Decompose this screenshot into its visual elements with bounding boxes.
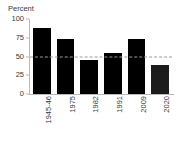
x-axis-tick-label: 1975 [69,96,77,113]
x-axis-tick-label: 1991 [116,96,124,113]
x-axis-tick-label: 1945-46 [45,96,53,124]
y-axis-tick-label: 0 [20,90,24,98]
y-axis-tick-label: 50 [16,53,24,61]
y-axis-tick-labels: 1007550250 [0,19,27,94]
y-axis-title: Percent [8,4,34,13]
bar-2020 [151,65,169,94]
y-axis-tick-label: 100 [11,15,24,23]
y-axis-tick-mark [26,19,29,20]
x-axis-tick-label: 2020 [163,96,171,113]
x-axis-tick-label: 2009 [140,96,148,113]
bar-1991 [104,53,122,94]
plot-area [30,19,172,94]
y-axis-tick-mark [26,94,29,95]
y-axis-tick-label: 75 [16,34,24,42]
bar-1982 [80,60,98,94]
bar-series [30,19,172,94]
x-axis-line [29,94,174,95]
x-axis-tick-label: 1982 [92,96,100,113]
y-axis-tick-label: 25 [16,71,24,79]
bar-1975 [57,39,75,95]
bar-chart: Percent 1007550250 1945-4619751982199120… [0,0,180,145]
bar-1945-46 [33,28,51,94]
bar-2009 [128,39,146,95]
y-axis-tick-mark [26,56,29,57]
x-axis-tick-labels: 1945-4619751982199120092020 [30,96,172,142]
y-axis-tick-mark [26,75,29,76]
y-axis-tick-mark [26,37,29,38]
